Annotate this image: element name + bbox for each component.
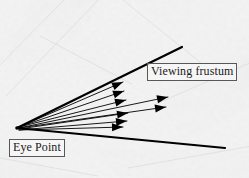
- ray-2-arrowhead: [112, 91, 124, 99]
- viewing-frustum-figure: Viewing frustum Eye Point: [0, 0, 249, 178]
- ray-6-arrowhead: [117, 111, 128, 119]
- ray-4-arrowhead: [156, 95, 168, 103]
- upper-frustum-edge: [17, 47, 182, 128]
- ray-1-arrowhead: [111, 82, 123, 90]
- ray-7-arrowhead: [116, 118, 127, 126]
- ray-3-arrowhead: [114, 99, 126, 107]
- label-viewing-frustum: Viewing frustum: [147, 63, 237, 81]
- label-eye-point: Eye Point: [9, 139, 65, 157]
- ray-5-arrowhead: [155, 105, 166, 113]
- eye-point-marker: [15, 126, 19, 130]
